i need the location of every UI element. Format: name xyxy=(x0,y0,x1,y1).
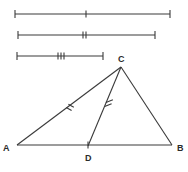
vertex-label-a: A xyxy=(3,143,10,153)
triangle-side-cb xyxy=(121,67,172,145)
geometry-diagram: A B C D xyxy=(0,0,188,172)
geometry-svg-canvas: A B C D xyxy=(0,0,188,172)
tick-on-ac-1 xyxy=(66,108,71,111)
vertex-label-b: B xyxy=(177,143,184,153)
vertex-label-d: D xyxy=(85,153,92,163)
vertex-label-c: C xyxy=(118,54,125,64)
reference-segment-one xyxy=(15,10,170,18)
triangle-abc xyxy=(17,67,172,146)
reference-segment-two xyxy=(18,31,155,39)
reference-segment-three xyxy=(17,52,103,60)
